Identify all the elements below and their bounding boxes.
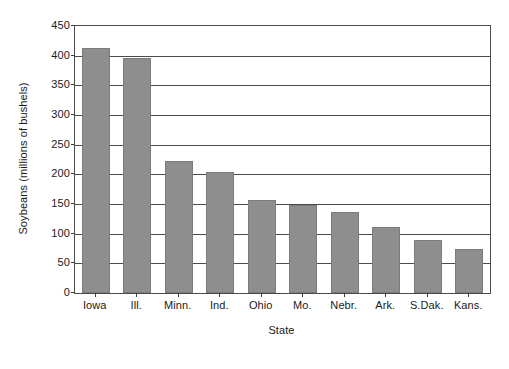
bar xyxy=(372,227,400,293)
x-tick-mark xyxy=(261,293,262,297)
x-tick-label: Iowa xyxy=(74,299,116,312)
y-tick-label: 450 xyxy=(30,20,70,31)
bar xyxy=(165,161,193,293)
y-tick-label: 150 xyxy=(30,198,70,209)
x-tick-label: S.Dak. xyxy=(406,299,448,312)
x-tick-mark xyxy=(178,293,179,297)
y-tick-label: 300 xyxy=(30,109,70,120)
bar xyxy=(455,249,483,294)
x-tick-label: Kans. xyxy=(448,299,490,312)
bar xyxy=(206,172,234,293)
x-tick-label: Nebr. xyxy=(323,299,365,312)
bar xyxy=(414,240,442,293)
y-tick-label: 350 xyxy=(30,79,70,90)
x-tick-label: Ohio xyxy=(240,299,282,312)
x-tick-mark xyxy=(427,293,428,297)
bar xyxy=(123,58,151,293)
x-tick-mark xyxy=(302,293,303,297)
x-tick-mark xyxy=(219,293,220,297)
y-tick-label: 400 xyxy=(30,50,70,61)
y-tick-label: 0 xyxy=(30,287,70,298)
plot-area xyxy=(74,25,491,294)
bar xyxy=(331,212,359,293)
y-tick-label: 200 xyxy=(30,168,70,179)
bars-layer xyxy=(75,26,490,293)
x-tick-mark xyxy=(344,293,345,297)
x-tick-mark xyxy=(136,293,137,297)
x-tick-label: Minn. xyxy=(157,299,199,312)
x-tick-mark xyxy=(468,293,469,297)
y-tick-label: 50 xyxy=(30,257,70,268)
x-tick-mark xyxy=(385,293,386,297)
y-tick-label: 250 xyxy=(30,139,70,150)
x-axis-title: State xyxy=(74,324,489,337)
bar xyxy=(82,48,110,293)
x-tick-label: Ill. xyxy=(116,299,158,312)
y-tick-label: 100 xyxy=(30,228,70,239)
bar xyxy=(248,200,276,293)
bar-chart: Soybeans (millions of bushels) 050100150… xyxy=(0,0,509,369)
x-axis-tick-labels: IowaIll.Minn.Ind.OhioMo.Nebr.Ark.S.Dak.K… xyxy=(74,293,489,313)
x-tick-label: Ark. xyxy=(365,299,407,312)
x-tick-mark xyxy=(95,293,96,297)
bar xyxy=(289,205,317,293)
x-tick-label: Ind. xyxy=(199,299,241,312)
y-axis-tick-labels: 050100150200250300350400450 xyxy=(30,25,70,292)
x-tick-label: Mo. xyxy=(282,299,324,312)
